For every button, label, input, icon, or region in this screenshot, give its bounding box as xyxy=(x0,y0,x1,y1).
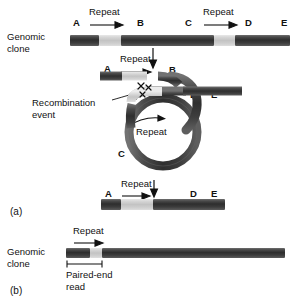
paired-end-read-label: Paired-end read xyxy=(66,269,112,292)
paired-end-bracket-group xyxy=(0,0,301,308)
recombination-figure: Genomic clone A Repeat B C Repeat D E A … xyxy=(0,0,301,308)
panel-label-b: (b) xyxy=(10,285,22,296)
